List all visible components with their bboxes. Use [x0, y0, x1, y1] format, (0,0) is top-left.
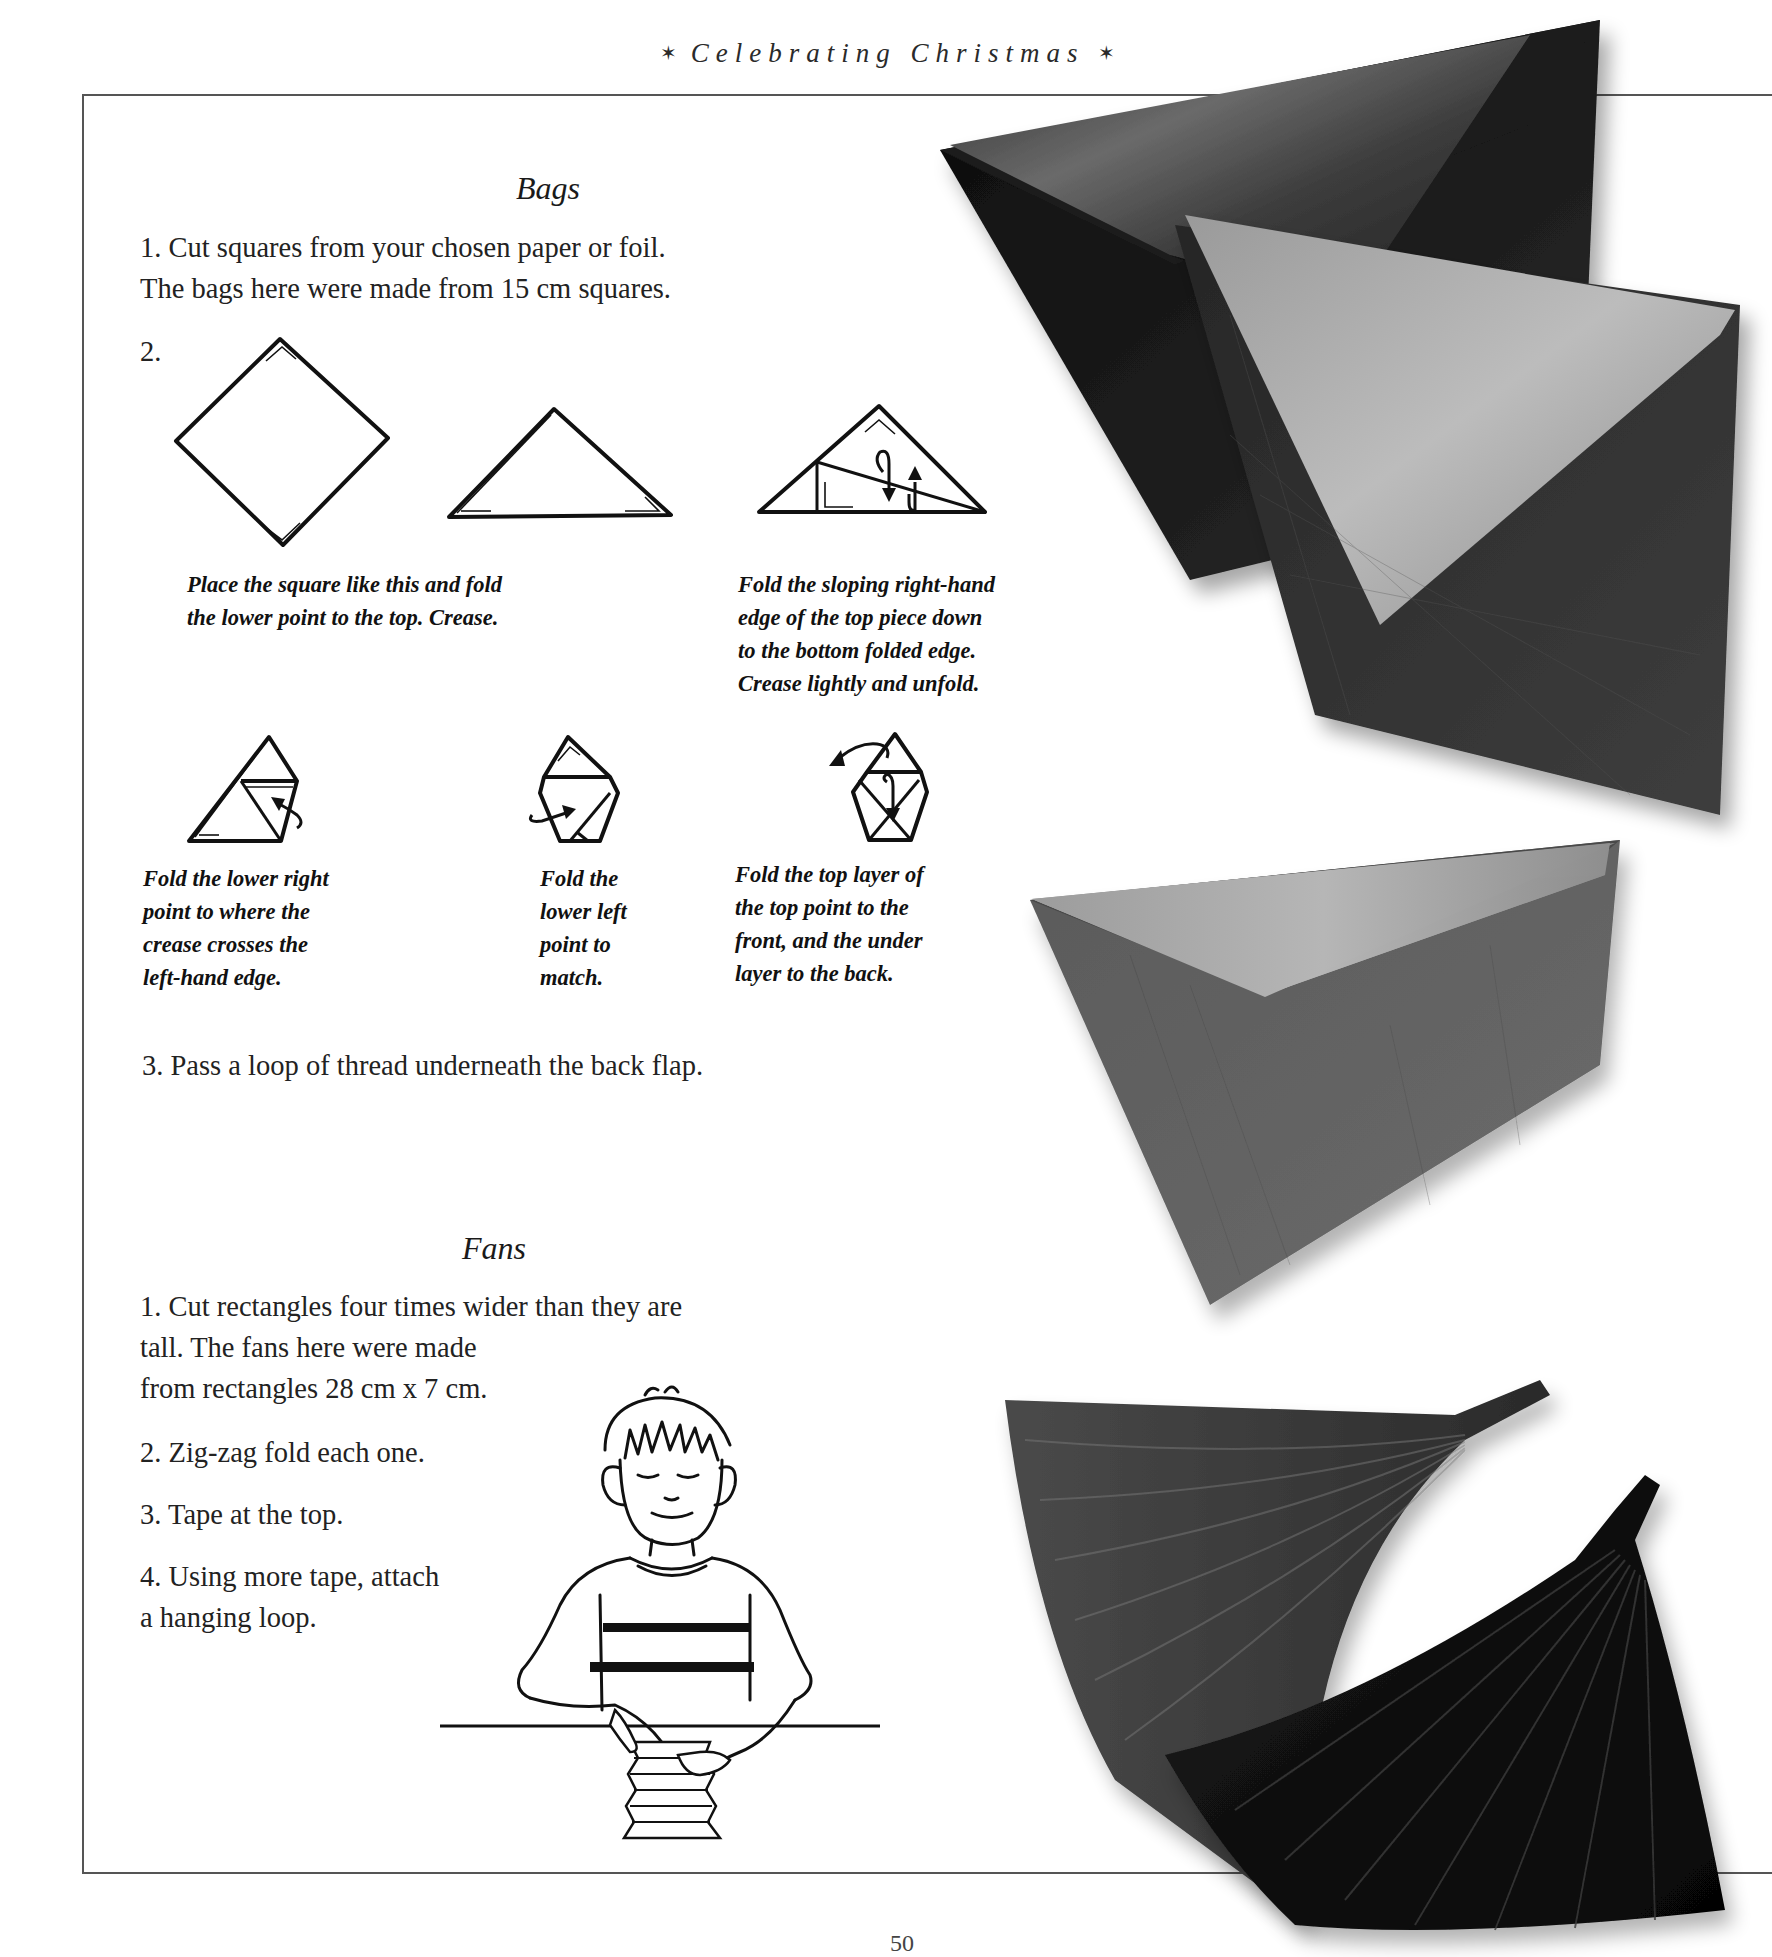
fans-step3: 3. Tape at the top. [140, 1494, 343, 1535]
fans-title: Fans [462, 1230, 526, 1267]
caption-line: crease crosses the [143, 928, 329, 961]
bags-title: Bags [516, 170, 580, 207]
caption-line: Place the square like this and fold [187, 568, 502, 601]
photo-bags-stack [930, 15, 1755, 825]
caption-fold-to-top: Place the square like this and fold the … [187, 568, 502, 634]
caption-line: match. [540, 961, 627, 994]
caption-top-layer: Fold the top layer of the top point to t… [735, 858, 924, 990]
bags-step2-label: 2. [140, 331, 161, 372]
fans-step1-line1: 1. Cut rectangles four times wider than … [140, 1286, 682, 1327]
star-ornament-icon: ✶ [660, 42, 677, 64]
fans-step1-line2: tall. The fans here were made [140, 1327, 682, 1368]
caption-line: Fold the top layer of [735, 858, 924, 891]
bags-step3: 3. Pass a loop of thread underneath the … [142, 1045, 703, 1086]
caption-lower-right: Fold the lower right point to where the … [143, 862, 329, 994]
caption-sloping-edge: Fold the sloping right-hand edge of the … [738, 568, 995, 700]
photo-fans [995, 1380, 1755, 1950]
photo-bag-marbled [1010, 835, 1650, 1315]
caption-line: Fold the [540, 862, 627, 895]
caption-lower-left: Fold the lower left point to match. [540, 862, 627, 994]
illustration-boy-folding [440, 1380, 900, 1840]
page-number: 50 [890, 1930, 914, 1957]
caption-line: Fold the lower right [143, 862, 329, 895]
diagram-fold-lower-left [530, 733, 630, 845]
caption-line: lower left [540, 895, 627, 928]
bags-step1-line2: The bags here were made from 15 cm squar… [140, 268, 671, 309]
bags-step1-line1: 1. Cut squares from your chosen paper or… [140, 227, 671, 268]
caption-line: point to [540, 928, 627, 961]
diagram-fold-top-layer [815, 730, 955, 845]
fans-step4-line2: a hanging loop. [140, 1597, 439, 1638]
diagram-fold-lower-right [185, 733, 355, 845]
diagram-crease-sloping-edge [755, 402, 990, 520]
caption-line: Crease lightly and unfold. [738, 667, 995, 700]
caption-line: left-hand edge. [143, 961, 329, 994]
caption-line: the top point to the [735, 891, 924, 924]
fans-step4: 4. Using more tape, attach a hanging loo… [140, 1556, 439, 1638]
caption-line: front, and the under [735, 924, 924, 957]
sweater-stripe [603, 1623, 751, 1632]
caption-line: layer to the back. [735, 957, 924, 990]
caption-line: the lower point to the top. Crease. [187, 601, 502, 634]
caption-line: edge of the top piece down [738, 601, 995, 634]
bags-step1: 1. Cut squares from your chosen paper or… [140, 227, 671, 309]
sweater-stripe [590, 1662, 754, 1672]
diagram-folded-triangle [445, 405, 675, 525]
fans-step2: 2. Zig-zag fold each one. [140, 1432, 425, 1473]
caption-line: Fold the sloping right-hand [738, 568, 995, 601]
fans-step4-line1: 4. Using more tape, attach [140, 1556, 439, 1597]
caption-line: to the bottom folded edge. [738, 634, 995, 667]
caption-line: point to where the [143, 895, 329, 928]
diagram-square-diamond [170, 335, 395, 550]
